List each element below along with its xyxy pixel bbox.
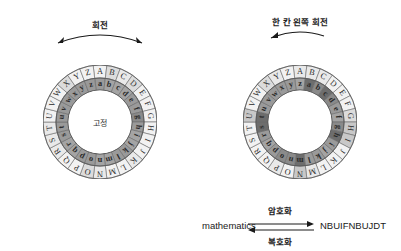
left-cipher-disk[interactable]: 고정 ABCDEFGHIJKLMNOPQRSTUVWXYZabcdefghijk… xyxy=(43,65,157,179)
encrypt-label: 암호화 xyxy=(268,204,292,216)
right-cipher-disk[interactable]: ABCDEFGHIJKLMNOPQRSTUVWXYZzabcdefghijklm… xyxy=(243,65,357,179)
cipher-equation: 암호화 mathematics NBUIFNBUJDT 복호화 xyxy=(195,204,401,248)
outer-letter-G: G xyxy=(346,112,355,119)
right-disk-rotate-label: 한 칸 왼쪽 회전 xyxy=(272,15,329,27)
inner-letter-m: m xyxy=(297,156,304,164)
disk-hub xyxy=(269,91,332,154)
figure-canvas: 회전 고정 ABCDEFGHIJKLMNOPQRSTUVWXYZabcdefgh… xyxy=(0,0,401,251)
inner-letter-t: t xyxy=(58,125,67,129)
encrypt-decrypt-arrows xyxy=(246,219,316,235)
inner-letter-a: a xyxy=(98,80,102,88)
outer-letter-T: T xyxy=(245,125,254,131)
inner-letter-z: z xyxy=(298,80,302,88)
inner-letter-h: h xyxy=(133,124,142,130)
inner-letter-s: s xyxy=(258,124,267,128)
right-disk-left-arrow xyxy=(266,27,328,41)
outer-letter-U: U xyxy=(245,112,254,119)
outer-letter-U: U xyxy=(45,112,54,119)
outer-letter-H: H xyxy=(146,125,155,132)
left-disk-center-label: 고정 xyxy=(93,117,107,128)
left-disk-double-arrow xyxy=(52,30,148,46)
outer-letter-G: G xyxy=(146,112,155,119)
outer-letter-H: H xyxy=(346,125,355,132)
ciphertext-label: NBUIFNBUJDT xyxy=(320,220,386,231)
inner-letter-g: g xyxy=(333,124,342,129)
left-disk-rotate-label: 회전 xyxy=(92,18,108,30)
outer-letter-N: N xyxy=(297,168,303,176)
outer-letter-A: A xyxy=(97,67,103,75)
outer-letter-A: A xyxy=(297,67,303,75)
decrypt-label: 복호화 xyxy=(268,235,292,247)
inner-letter-n: n xyxy=(98,156,103,164)
outer-letter-T: T xyxy=(45,125,54,131)
outer-letter-N: N xyxy=(97,168,103,176)
